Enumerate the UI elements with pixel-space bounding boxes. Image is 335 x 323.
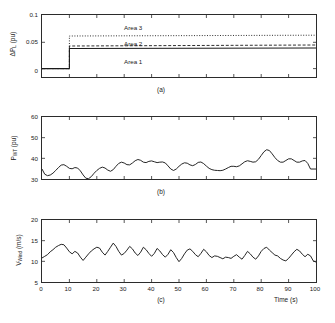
panel-a-ylabel-main: ΔP [9, 48, 16, 57]
panel-b-ytick-0: 60 [12, 113, 38, 120]
panel-a-ytick-1: 0.05 [12, 38, 38, 45]
series-pwt [42, 150, 316, 179]
panel-c-axes [41, 219, 317, 283]
panel-c-xlabel: Time (s) [274, 296, 298, 303]
panel-c-xtick-9: 90 [277, 285, 299, 292]
panel-c-xtick-10: 100 [304, 285, 326, 292]
panel-c-ytick-0: 20 [12, 216, 38, 223]
panel-a: ΔPL (pu) 0.1 0.05 0 [0, 0, 335, 100]
panel-a-plot [42, 15, 316, 77]
figure-root: ΔPL (pu) 0.1 0.05 0 [0, 0, 335, 323]
panel-c-xtick-7: 70 [222, 285, 244, 292]
panel-b: PWT (pu) 60 50 40 30 [0, 104, 335, 204]
panel-c-ytick-1: 15 [12, 237, 38, 244]
panel-b-ytick-2: 40 [12, 155, 38, 162]
panel-a-caption: (a) [141, 86, 181, 93]
panel-a-axes [41, 14, 317, 78]
panel-c-caption: (c) [141, 296, 181, 303]
panel-c-xtick-2: 20 [85, 285, 107, 292]
panel-b-axes [41, 116, 317, 180]
panel-c-ylabel: VWind (m/s) [15, 224, 23, 276]
panel-c-plot [42, 220, 316, 282]
panel-a-ytick-0: 0.1 [12, 11, 38, 18]
panel-c-ytick-marks [42, 241, 316, 262]
series-area-3 [42, 35, 316, 68]
panel-c-xtick-1: 10 [57, 285, 79, 292]
panel-c: VWind (m/s) 20 15 10 5 [0, 208, 335, 323]
panel-c-ytick-2: 10 [12, 258, 38, 265]
panel-c-xtick-6: 60 [194, 285, 216, 292]
panel-c-xtick-4: 40 [140, 285, 162, 292]
panel-b-caption: (b) [141, 188, 181, 195]
panel-c-xtick-marks [69, 220, 288, 282]
series-area-1 [42, 48, 316, 69]
panel-b-ytick-marks [42, 138, 316, 159]
panel-b-xtick-marks [69, 117, 288, 179]
panel-a-annotation-area-1: Area 1 [124, 58, 142, 65]
panel-a-ylabel-sub: L [12, 45, 17, 48]
panel-c-xtick-5: 50 [167, 285, 189, 292]
panel-a-annotation-area-3: Area 3 [124, 24, 142, 31]
panel-b-plot [42, 117, 316, 179]
panel-b-ylabel: PWT (pu) [10, 125, 18, 171]
panel-a-annotation-area-2: Area 2 [124, 40, 142, 47]
series-vwind [42, 243, 316, 262]
panel-b-ytick-3: 30 [12, 176, 38, 183]
panel-c-xtick-3: 30 [112, 285, 134, 292]
panel-c-xtick-0: 0 [30, 285, 52, 292]
panel-a-ytick-2: 0 [12, 67, 38, 74]
panel-c-xtick-8: 80 [249, 285, 271, 292]
panel-b-ytick-1: 50 [12, 134, 38, 141]
